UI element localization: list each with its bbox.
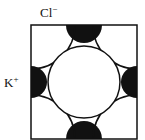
cation-bottom [66, 121, 102, 140]
cation-right [121, 66, 145, 98]
unit-cell-diagram [0, 0, 145, 140]
anion-center [48, 46, 120, 118]
